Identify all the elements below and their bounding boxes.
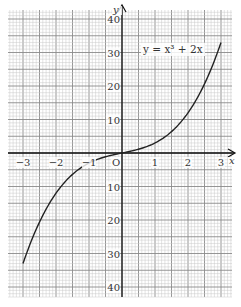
- y-tick-label: 30: [107, 48, 120, 59]
- y-tick-label: 20: [107, 215, 120, 226]
- x-tick-label: 1: [152, 157, 158, 168]
- y-tick-label: 10: [107, 115, 120, 126]
- y-tick-label: 30: [107, 249, 120, 260]
- y-tick-label: 10: [107, 182, 120, 193]
- x-tick-label: 2: [185, 157, 191, 168]
- x-tick-label: −2: [49, 157, 64, 168]
- x-tick-label: 3: [218, 157, 224, 168]
- x-axis-label: x: [229, 155, 235, 166]
- y-tick-label: 40: [107, 282, 120, 293]
- y-tick-label: 40: [107, 14, 120, 25]
- x-tick-label: −3: [16, 157, 31, 168]
- y-axis-label: y: [112, 4, 119, 15]
- cubic-function-chart: −3−2−11234030201010203040 y x O y = x³ +…: [0, 0, 241, 307]
- origin-label: O: [112, 157, 120, 168]
- x-tick-label: −1: [82, 157, 97, 168]
- y-tick-label: 20: [107, 81, 120, 92]
- equation-label: y = x³ + 2x: [142, 43, 203, 55]
